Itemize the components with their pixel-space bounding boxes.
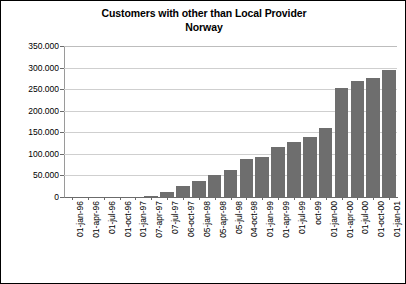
x-axis-tick-label: 01-apr-00 xyxy=(346,201,355,238)
x-axis-tick-mark xyxy=(262,197,263,200)
bar xyxy=(335,88,349,197)
x-axis-tick-mark xyxy=(167,197,168,200)
x-axis-tick-mark xyxy=(278,197,279,200)
bar xyxy=(382,70,396,197)
x-axis-tick-mark xyxy=(294,197,295,200)
x-axis-tick-mark xyxy=(310,197,311,200)
y-axis-tick-label: 150.000 xyxy=(1,128,59,137)
x-axis-tick-mark xyxy=(373,197,374,200)
x-axis-tick-label: 01-jan-96 xyxy=(76,201,85,237)
bar xyxy=(208,175,222,197)
bar-series xyxy=(64,46,397,197)
bar xyxy=(192,181,206,197)
x-axis-tick-mark xyxy=(72,197,73,200)
x-axis-tick-label: 05-apr-98 xyxy=(219,201,228,238)
x-axis-tick-mark xyxy=(120,197,121,200)
y-axis-tick-mark xyxy=(60,197,64,198)
x-axis-tick-label: 06-oct-97 xyxy=(187,201,196,237)
bar xyxy=(303,137,317,197)
bar xyxy=(351,81,365,197)
y-axis-tick-label: 350.000 xyxy=(1,42,59,51)
x-axis-tick-label: 01-jul-96 xyxy=(108,201,117,234)
x-axis-tick-label: 01-oct-00 xyxy=(377,201,386,237)
bar xyxy=(224,170,238,197)
x-axis-tick-mark xyxy=(183,197,184,200)
x-axis-tick-label: 01-jul-99 xyxy=(298,201,307,234)
bar xyxy=(319,128,333,197)
x-axis-tick-mark xyxy=(246,197,247,200)
x-axis-tick-mark xyxy=(151,197,152,200)
x-axis-tick-label: 01-apr-96 xyxy=(92,201,101,238)
x-axis-tick-mark xyxy=(231,197,232,200)
x-axis-tick-label: oct-99 xyxy=(314,201,323,225)
x-axis-tick-mark xyxy=(389,197,390,200)
x-axis-tick-mark xyxy=(326,197,327,200)
x-axis-tick-label: 01-apr-99 xyxy=(282,201,291,238)
y-axis-tick-label: 0 xyxy=(1,193,59,202)
x-axis-tick-mark xyxy=(88,197,89,200)
y-axis-tick-label: 250.000 xyxy=(1,85,59,94)
x-axis-tick-label: 01-oct-96 xyxy=(124,201,133,237)
y-axis-tick-label: 100.000 xyxy=(1,150,59,159)
y-axis-tick-label: 50.000 xyxy=(1,171,59,180)
x-axis-tick-label: 04-oct-98 xyxy=(250,201,259,237)
x-axis-tick-mark xyxy=(342,197,343,200)
x-axis-tick-label: 05-jan-98 xyxy=(203,201,212,237)
bar xyxy=(176,186,190,197)
x-axis-tick-label: 01-jan-01 xyxy=(393,201,402,237)
x-axis-tick-label: 01-jul-00 xyxy=(361,201,370,234)
x-axis-tick-mark xyxy=(199,197,200,200)
x-axis-tick-label: 07-apr-97 xyxy=(155,201,164,238)
bar xyxy=(287,142,301,197)
plot-wrapper: 350.000300.000250.000200.000150.000100.0… xyxy=(1,1,406,284)
x-axis-tick-mark xyxy=(104,197,105,200)
x-axis-tick-label: 01-jan-99 xyxy=(266,201,275,237)
x-axis-tick-mark xyxy=(357,197,358,200)
y-axis-tick-label: 300.000 xyxy=(1,64,59,73)
x-axis-tick-mark xyxy=(215,197,216,200)
chart-container: Customers with other than Local Provider… xyxy=(0,0,406,284)
y-axis-tick-label: 200.000 xyxy=(1,107,59,116)
x-axis-tick-mark xyxy=(135,197,136,200)
bar xyxy=(240,159,254,197)
bar xyxy=(366,78,380,197)
x-axis-tick-label: 01-jan-00 xyxy=(330,201,339,237)
x-axis-tick-label: 01-jan-97 xyxy=(139,201,148,237)
x-axis-tick-label: 05-jul-98 xyxy=(235,201,244,234)
bar xyxy=(255,157,269,197)
bar xyxy=(271,147,285,197)
x-axis-tick-label: 07-jul-97 xyxy=(171,201,180,234)
